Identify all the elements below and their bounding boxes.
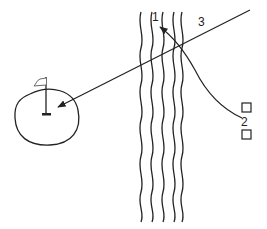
golf-hole-diagram: 1 2 3 [0,0,267,229]
putting-green [15,89,79,145]
label-path-3: 3 [198,15,205,29]
tee-marker-bottom [242,130,251,139]
hole-cup [42,113,51,116]
shot-path-3 [58,10,250,107]
shot-path-1 [160,27,242,118]
label-path-2: 2 [241,115,248,129]
tee-marker-top [242,103,251,112]
flag-icon [34,77,46,113]
label-path-1: 1 [152,10,159,24]
